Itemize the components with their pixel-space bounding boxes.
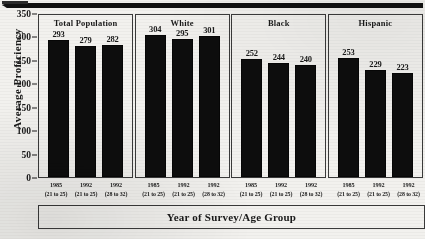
x-axis-tick-label: 1985(21 to 25) <box>41 180 71 201</box>
bar[interactable] <box>365 70 386 177</box>
bar-group: 253229223 <box>329 15 422 177</box>
tick-year: 1992 <box>296 180 326 190</box>
bar[interactable] <box>172 39 193 177</box>
x-axis-tick-label: 1992(28 to 32) <box>101 180 131 201</box>
bar-value-label: 295 <box>176 29 188 38</box>
y-axis-tick-mark <box>32 178 37 179</box>
x-axis-tick-labels: 1985(21 to 25)1992(21 to 25)1992(28 to 3… <box>38 180 423 201</box>
x-axis-title-box: Year of Survey/Age Group <box>38 205 425 229</box>
bar-value-label: 279 <box>79 36 91 45</box>
header-rule <box>2 3 423 8</box>
chart-panel: Black252244240 <box>231 14 326 178</box>
y-axis-tick-mark <box>32 131 37 132</box>
tick-age-range: (21 to 25) <box>169 190 199 199</box>
tick-year: 1985 <box>139 180 169 190</box>
bar[interactable] <box>241 59 262 177</box>
x-tick-group: 1985(21 to 25)1992(21 to 25)1992(28 to 3… <box>233 180 329 201</box>
tick-age-range: (21 to 25) <box>334 190 364 199</box>
x-axis-title: Year of Survey/Age Group <box>167 211 296 223</box>
x-axis-tick-label: 1992(21 to 25) <box>364 180 394 201</box>
bar-value-label: 240 <box>300 55 312 64</box>
bar-item[interactable]: 304 <box>145 15 166 177</box>
bar-value-label: 304 <box>149 25 161 34</box>
bar-value-label: 223 <box>396 63 408 72</box>
y-axis-tick-mark <box>32 107 37 108</box>
bar-value-label: 282 <box>107 35 119 44</box>
tick-age-range: (21 to 25) <box>236 190 266 199</box>
bar-item[interactable]: 229 <box>365 15 386 177</box>
tick-year: 1985 <box>334 180 364 190</box>
bar-value-label: 253 <box>342 48 354 57</box>
bar[interactable] <box>295 65 316 177</box>
bar-item[interactable]: 240 <box>295 15 316 177</box>
bar-item[interactable]: 253 <box>338 15 359 177</box>
bar-item[interactable]: 244 <box>268 15 289 177</box>
chart-panel: Hispanic253229223 <box>328 14 423 178</box>
x-tick-group: 1985(21 to 25)1992(21 to 25)1992(28 to 3… <box>331 180 425 201</box>
y-axis-tick-mark <box>32 60 37 61</box>
tick-age-range: (21 to 25) <box>139 190 169 199</box>
bar-group: 304295301 <box>136 15 229 177</box>
x-axis-tick-label: 1992(21 to 25) <box>266 180 296 201</box>
x-axis-tick-label: 1992(21 to 25) <box>169 180 199 201</box>
panel-group: Total Population293279282White304295301B… <box>38 14 423 178</box>
x-tick-group: 1985(21 to 25)1992(21 to 25)1992(28 to 3… <box>38 180 134 201</box>
bar-item[interactable]: 293 <box>48 15 69 177</box>
chart-panel: Total Population293279282 <box>38 14 133 178</box>
bar-value-label: 229 <box>369 60 381 69</box>
y-axis-tick-mark <box>32 154 37 155</box>
tick-year: 1992 <box>364 180 394 190</box>
bar[interactable] <box>338 58 359 177</box>
tick-year: 1992 <box>101 180 131 190</box>
bar-item[interactable]: 279 <box>75 15 96 177</box>
bar-item[interactable]: 252 <box>241 15 262 177</box>
tick-year: 1992 <box>266 180 296 190</box>
x-tick-group: 1985(21 to 25)1992(21 to 25)1992(28 to 3… <box>136 180 232 201</box>
tick-year: 1992 <box>394 180 424 190</box>
tick-year: 1985 <box>236 180 266 190</box>
tick-age-range: (28 to 32) <box>199 190 229 199</box>
bar-item[interactable]: 282 <box>102 15 123 177</box>
bar[interactable] <box>102 45 123 177</box>
y-axis-tick-mark <box>32 37 37 38</box>
tick-age-range: (28 to 32) <box>296 190 326 199</box>
bar-group: 252244240 <box>232 15 325 177</box>
bar-value-label: 293 <box>52 30 64 39</box>
bar-value-label: 252 <box>246 49 258 58</box>
x-axis-tick-label: 1992(28 to 32) <box>199 180 229 201</box>
chart-panel: White304295301 <box>135 14 230 178</box>
bar[interactable] <box>48 40 69 177</box>
bar[interactable] <box>392 73 413 177</box>
bar-item[interactable]: 223 <box>392 15 413 177</box>
bar-value-label: 244 <box>273 53 285 62</box>
tick-age-range: (21 to 25) <box>364 190 394 199</box>
tick-age-range: (21 to 25) <box>71 190 101 199</box>
tick-year: 1992 <box>199 180 229 190</box>
tick-age-range: (28 to 32) <box>394 190 424 199</box>
bar[interactable] <box>199 36 220 177</box>
bar[interactable] <box>145 35 166 177</box>
tick-age-range: (21 to 25) <box>41 190 71 199</box>
tick-age-range: (28 to 32) <box>101 190 131 199</box>
tick-year: 1992 <box>71 180 101 190</box>
x-axis-tick-label: 1985(21 to 25) <box>139 180 169 201</box>
x-axis-tick-label: 1992(21 to 25) <box>71 180 101 201</box>
y-axis-tick-mark <box>32 84 37 85</box>
x-axis-tick-label: 1985(21 to 25) <box>236 180 266 201</box>
tick-age-range: (21 to 25) <box>266 190 296 199</box>
x-axis-tick-label: 1985(21 to 25) <box>334 180 364 201</box>
bar-item[interactable]: 295 <box>172 15 193 177</box>
x-axis-tick-label: 1992(28 to 32) <box>394 180 424 201</box>
bar[interactable] <box>268 63 289 177</box>
x-axis-tick-label: 1992(28 to 32) <box>296 180 326 201</box>
tick-year: 1992 <box>169 180 199 190</box>
y-axis-tick-mark <box>32 14 37 15</box>
bar-group: 293279282 <box>39 15 132 177</box>
bar-chart-figure: Average Proficiency 05010015020025030035… <box>0 0 425 239</box>
bar-item[interactable]: 301 <box>199 15 220 177</box>
bar[interactable] <box>75 46 96 177</box>
tick-year: 1985 <box>41 180 71 190</box>
plot-area: 050100150200250300350 Total Population29… <box>38 14 423 178</box>
bar-value-label: 301 <box>203 26 215 35</box>
